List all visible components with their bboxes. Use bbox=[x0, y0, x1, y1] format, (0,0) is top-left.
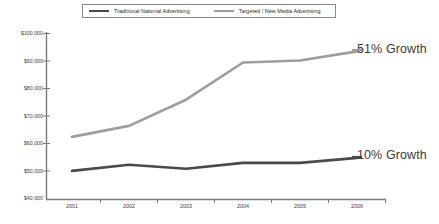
chart-canvas bbox=[0, 0, 439, 224]
x-tick-label-2001: 2001 bbox=[55, 203, 89, 209]
data-line-traditional-national-advertising bbox=[72, 158, 357, 171]
x-tick-label-2003: 2003 bbox=[169, 203, 203, 209]
x-axis: 2001 2002 2003 2004 2005 2006 bbox=[0, 203, 439, 217]
chart-page: Traditional National Advertising Targete… bbox=[0, 0, 439, 224]
data-line-targeted-new-media-advertising bbox=[72, 51, 357, 136]
x-tick-label-2004: 2004 bbox=[226, 203, 260, 209]
x-tick-label-2005: 2005 bbox=[283, 203, 317, 209]
plot-area: 51% Growth 10% Growth bbox=[0, 0, 439, 224]
x-tick-label-2006: 2006 bbox=[340, 203, 374, 209]
annotation-traditional-growth: 10% Growth bbox=[357, 148, 427, 162]
x-tick-label-2002: 2002 bbox=[112, 203, 146, 209]
annotation-targeted-growth: 51% Growth bbox=[357, 42, 427, 56]
